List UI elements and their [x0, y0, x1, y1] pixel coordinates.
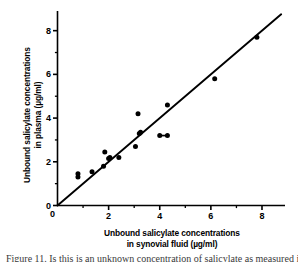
- x-axis-title: Unbound salicylate concentrations in syn…: [57, 228, 287, 250]
- data-point: [138, 130, 143, 135]
- line-of-identity: [58, 14, 282, 205]
- data-point: [102, 149, 107, 154]
- y-axis-title-line1: Unbound salicylate concentrations: [22, 47, 32, 183]
- data-point: [101, 164, 106, 169]
- data-point: [133, 144, 138, 149]
- data-point: [165, 102, 170, 107]
- x-tick-label: 0: [46, 209, 60, 219]
- x-tick-label: 4: [153, 211, 167, 221]
- data-point: [254, 35, 259, 40]
- data-point: [136, 111, 141, 116]
- x-tick-label: 8: [255, 211, 269, 221]
- y-tick-label: 8: [37, 26, 51, 36]
- identity-line: [58, 14, 282, 205]
- x-tick-label: 2: [102, 211, 116, 221]
- data-point: [165, 133, 170, 138]
- data-point: [116, 155, 121, 160]
- data-point: [75, 171, 80, 176]
- x-axis-title-line1: Unbound salicylate concentrations: [104, 228, 240, 238]
- y-tick-label: 4: [37, 113, 51, 123]
- figure-caption: Figure 11. Is this is an unknown concent…: [6, 253, 298, 262]
- x-tick-label: 6: [204, 211, 218, 221]
- data-point: [107, 155, 112, 160]
- x-axis-title-line2: in synovial fluid (µg/ml): [57, 239, 287, 250]
- plot-canvas: [0, 0, 302, 262]
- data-point: [90, 169, 95, 174]
- y-tick-label: 6: [37, 69, 51, 79]
- y-tick-label: 2: [37, 157, 51, 167]
- data-point: [157, 133, 162, 138]
- data-point: [212, 76, 217, 81]
- figure-scatter-plot: Unbound salicylate concentrations in pla…: [0, 0, 302, 262]
